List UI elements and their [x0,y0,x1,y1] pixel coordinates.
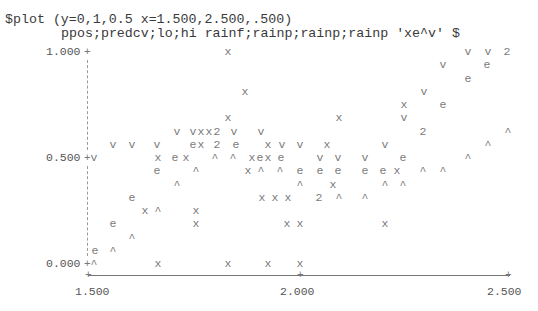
hi-point: v [173,126,181,138]
lo-point: ^ [296,179,304,191]
lo-point: ^ [484,139,492,151]
ppos-point: x [283,218,291,230]
ppos-point: x [192,205,200,217]
predcv-point: e [361,165,369,177]
hi-point: v [257,126,265,138]
hi-point: v [316,152,324,164]
lo-point: ^ [276,165,284,177]
predcv-point: e [256,152,264,164]
command-line-1: $plot (y=0,1,0.5 x=1.500,2.500,.500) [5,13,292,27]
y-tick-label-0000: 0.000 [46,258,81,270]
lo-point: ^ [192,165,200,177]
ppos-point: x [323,139,331,151]
lo-point: ^ [381,179,389,191]
ppos-point: x [400,99,408,111]
command-line-2: ppos;predcv;lo;hi rainf;rainp;rainp;rain… [61,27,460,41]
ppos-point: x [197,139,205,151]
ppos-point: x [335,112,343,124]
x-tick-label-1500: 1.500 [75,286,110,298]
ppos-point: x [264,139,272,151]
ppos-point: x [224,112,232,124]
hi-point: v [484,46,492,58]
lo-point: ^ [211,152,219,164]
predcv-point: e [439,99,447,111]
hi-point: v [278,139,286,151]
ppos-point: x [264,258,272,270]
ppos-point: x [393,165,401,177]
lo-point: ^ [154,205,162,217]
ppos-point: x [205,126,213,138]
ppos-point: x [248,152,256,164]
x-tick-plus-2000: + [297,270,304,280]
predcv-point: e [379,165,387,177]
lo-point: ^ [464,152,472,164]
predcv-point: e [91,245,99,257]
predcv-point: e [399,152,407,164]
hi-point: v [361,152,369,164]
ppos-point: x [241,86,249,98]
y-tick-label-0500: 0.500 [46,152,81,164]
x-tick-plus-1500: + [85,270,92,280]
overlap-point: 2 [213,139,221,151]
y-axis-line [87,60,88,150]
y-axis-line-lower [87,166,88,256]
overlap-point: 2 [419,126,427,138]
ppos-point: x [154,152,162,164]
lo-point: ^ [439,165,447,177]
ppos-point: x [192,218,200,230]
y-tick-label-1000: 1.000 [46,46,81,58]
hi-point: v [334,152,342,164]
y-tick-plus-top: + [84,47,91,57]
hi-point: v [189,126,197,138]
predcv-point: e [296,165,304,177]
predcv-point: e [109,218,117,230]
overlap-point: 2 [315,192,323,204]
lo-point: ^ [504,126,512,138]
predcv-point: e [316,165,324,177]
hi-point: v [296,139,304,151]
predcv-point: e [277,152,285,164]
hi-point: v [400,112,408,124]
lo-point: ^ [361,192,369,204]
ppos-point: x [329,179,337,191]
overlap-point: 2 [503,46,511,58]
predcv-point: e [334,165,342,177]
predcv-point: e [189,139,197,151]
predcv-point: e [171,152,179,164]
overlap-point: 2 [213,126,221,138]
ppos-point: x [182,152,190,164]
ppos-point: x [224,46,232,58]
hi-point: v [230,126,238,138]
predcv-point: e [464,73,472,85]
predcv-point: e [232,139,240,151]
hi-point: v [381,139,389,151]
lo-point: ^ [128,232,136,244]
ppos-point: x [197,126,205,138]
lo-point: ^ [335,192,343,204]
hi-point: v [420,86,428,98]
hi-point: v [109,139,117,151]
ppos-point: x [244,165,252,177]
ppos-point: x [154,258,162,270]
hi-point: v [439,59,447,71]
lo-point: ^ [419,165,427,177]
ppos-point: x [284,192,292,204]
lo-point: ^ [90,258,98,270]
hi-point: v [90,152,98,164]
ppos-point: x [258,192,266,204]
hi-point: v [128,139,136,151]
x-tick-plus-2500: + [505,270,512,280]
lo-point: ^ [399,179,407,191]
ppos-point: x [381,218,389,230]
lo-point: ^ [173,179,181,191]
predcv-point: e [153,165,161,177]
lo-point: ^ [109,245,117,257]
ppos-point: x [296,258,304,270]
ppos-point: x [271,192,279,204]
x-tick-label-2500: 2.500 [487,286,522,298]
hi-point: v [153,139,161,151]
ppos-point: x [264,152,272,164]
ppos-point: x [224,258,232,270]
x-tick-label-2000: 2.000 [280,286,315,298]
predcv-point: e [483,59,491,71]
